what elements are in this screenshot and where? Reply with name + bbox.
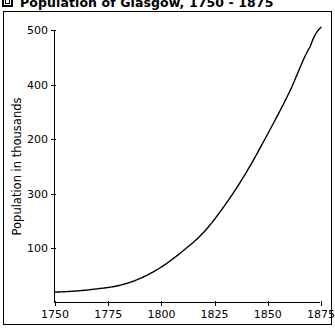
y-axis-tick-label: 400 [27,78,48,91]
x-axis-tick-mark [215,301,216,306]
x-axis-tick-mark [108,301,109,306]
x-axis-tick-mark [55,301,56,306]
y-axis-tick-label: 300 [27,187,48,200]
y-axis-tick-mark [51,248,56,249]
y-axis-tick-mark [51,139,56,140]
x-axis-tick-label: 1775 [94,308,122,321]
x-axis-tick-label: 1750 [41,308,69,321]
x-axis-tick-label: 1875 [307,308,335,321]
y-axis-tick-label: 500 [27,24,48,37]
y-axis-title: Population in thousands [10,30,24,303]
y-axis-tick-mark [51,194,56,195]
chart-title-bar: Population of Glasgow, 1750 - 1875 [0,0,335,11]
x-axis-tick-mark [321,301,322,306]
page-title: Population of Glasgow, 1750 - 1875 [20,0,273,10]
chart-frame: Population in thousands 1003002004005001… [3,11,332,325]
plot-area: 100300200400500175017751800182518501875 [54,30,320,303]
y-axis-tick-mark [51,30,56,31]
y-axis-tick-mark [51,85,56,86]
x-axis-tick-mark [268,301,269,306]
x-axis-tick-label: 1850 [254,308,282,321]
x-axis-tick-label: 1825 [201,308,229,321]
x-axis-tick-label: 1800 [147,308,175,321]
population-chart-figure: Population of Glasgow, 1750 - 1875 Popul… [0,0,335,328]
x-axis-tick-mark [161,301,162,306]
population-curve [55,30,321,303]
y-axis-tick-label: 200 [27,133,48,146]
square-bullet-icon [2,0,13,7]
y-axis-tick-label: 100 [27,242,48,255]
